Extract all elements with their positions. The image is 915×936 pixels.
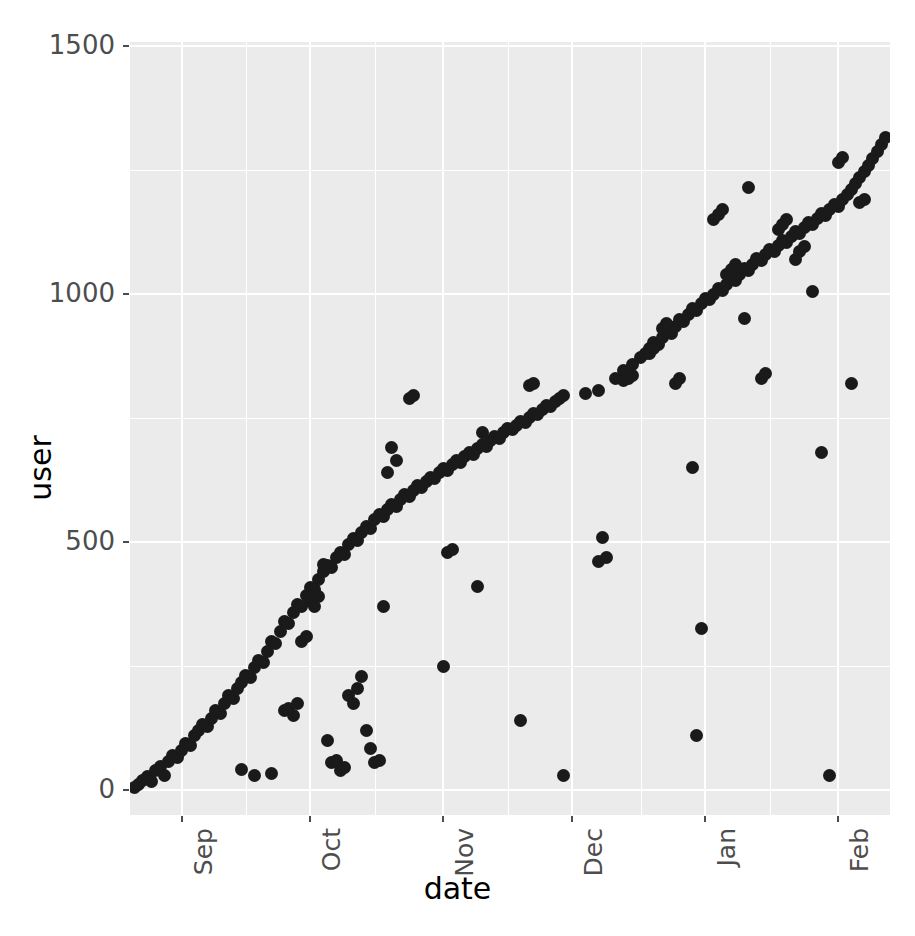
y-tick-label: 0	[98, 776, 115, 802]
gridline-minor-horizontal	[130, 666, 890, 667]
data-point	[592, 384, 605, 397]
data-point	[647, 342, 660, 355]
data-point	[780, 213, 793, 226]
data-point	[557, 769, 570, 782]
data-point	[287, 709, 300, 722]
data-point	[347, 697, 360, 710]
data-point	[596, 531, 609, 544]
gridline-major-horizontal	[130, 45, 890, 47]
data-point	[317, 558, 330, 571]
data-point	[476, 426, 489, 439]
data-point	[729, 258, 742, 271]
data-point	[446, 543, 459, 556]
data-point	[158, 769, 171, 782]
data-point	[321, 734, 334, 747]
gridline-major-vertical	[309, 42, 311, 815]
y-tick-label: 1500	[49, 32, 115, 58]
data-point	[806, 285, 819, 298]
y-tick-label: 500	[65, 528, 115, 554]
scatter-plot: user 050010001500 SepOctNovDecJanFeb dat…	[0, 0, 915, 936]
gridline-major-horizontal	[130, 789, 890, 791]
gridline-major-vertical	[571, 42, 573, 815]
data-point	[858, 193, 871, 206]
x-tick-label: Dec	[581, 828, 606, 876]
gridline-minor-horizontal	[130, 170, 890, 171]
y-axis-title-text: user	[26, 435, 56, 500]
data-point	[695, 622, 708, 635]
x-tick-mark	[442, 816, 444, 822]
data-point	[759, 367, 772, 380]
data-point	[815, 446, 828, 459]
data-point	[471, 580, 484, 593]
data-point	[437, 660, 450, 673]
data-point	[355, 670, 368, 683]
data-point	[269, 637, 282, 650]
y-tick-mark	[123, 45, 129, 47]
data-point	[377, 600, 390, 613]
gridline-minor-vertical	[246, 42, 247, 815]
data-point	[690, 729, 703, 742]
y-axis-title: user	[8, 0, 73, 936]
data-point	[836, 151, 849, 164]
gridline-major-vertical	[442, 42, 444, 815]
x-tick-mark	[837, 816, 839, 822]
data-point	[407, 389, 420, 402]
data-point	[291, 697, 304, 710]
data-point	[600, 551, 613, 564]
x-tick-mark	[181, 816, 183, 822]
data-point	[738, 312, 751, 325]
data-point	[557, 389, 570, 402]
data-point	[300, 630, 313, 643]
data-point	[312, 590, 325, 603]
data-point	[686, 461, 699, 474]
data-point	[798, 240, 811, 253]
x-tick-label: Jan	[714, 828, 739, 867]
gridline-minor-vertical	[770, 42, 771, 815]
data-point	[385, 441, 398, 454]
data-point	[879, 131, 890, 144]
data-point	[373, 754, 386, 767]
y-tick-label: 1000	[49, 280, 115, 306]
gridline-major-horizontal	[130, 541, 890, 543]
data-point	[579, 387, 592, 400]
data-point	[381, 466, 394, 479]
x-tick-label: Feb	[847, 828, 872, 872]
x-tick-label: Oct	[319, 828, 344, 871]
x-tick-mark	[571, 816, 573, 822]
x-tick-mark	[309, 816, 311, 822]
data-point	[626, 369, 639, 382]
data-point	[514, 714, 527, 727]
gridline-major-horizontal	[130, 293, 890, 295]
x-tick-mark	[704, 816, 706, 822]
data-point	[235, 763, 248, 776]
data-point	[390, 454, 403, 467]
y-tick-mark	[123, 789, 129, 791]
data-point	[364, 742, 377, 755]
data-point	[845, 377, 858, 390]
data-point	[338, 761, 351, 774]
data-point	[248, 769, 261, 782]
gridline-minor-vertical	[375, 42, 376, 815]
data-point	[716, 203, 729, 216]
data-point	[527, 377, 540, 390]
y-tick-mark	[123, 293, 129, 295]
x-axis-title: date	[0, 874, 915, 904]
gridline-major-vertical	[181, 42, 183, 815]
data-point	[360, 724, 373, 737]
data-point	[823, 769, 836, 782]
gridline-minor-horizontal	[130, 418, 890, 419]
plot-panel	[130, 42, 890, 815]
gridline-minor-vertical	[641, 42, 642, 815]
data-point	[673, 372, 686, 385]
gridline-major-vertical	[704, 42, 706, 815]
y-tick-mark	[123, 541, 129, 543]
data-point	[282, 617, 295, 630]
data-point	[742, 181, 755, 194]
x-tick-label: Nov	[452, 828, 477, 877]
data-point	[351, 682, 364, 695]
x-tick-label: Sep	[191, 828, 216, 875]
data-point	[265, 767, 278, 780]
